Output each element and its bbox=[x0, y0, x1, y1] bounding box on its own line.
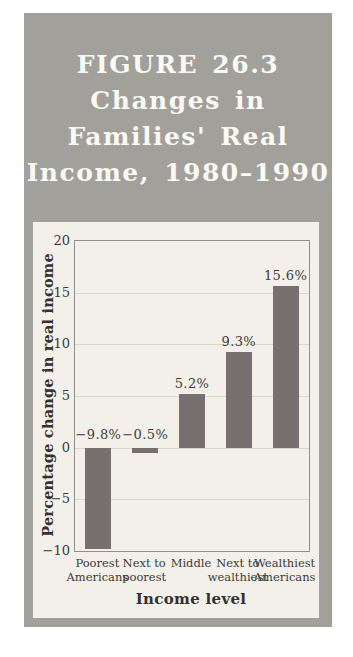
bar-value-label: 15.6% bbox=[264, 268, 307, 283]
x-category-label: Middle bbox=[171, 556, 212, 570]
y-tick-label: 0 bbox=[62, 439, 70, 454]
y-tick-label: 15 bbox=[53, 284, 70, 299]
bar-value-label: −9.8% bbox=[75, 427, 121, 442]
bar bbox=[226, 352, 252, 448]
figure-title-line: Families' Real bbox=[24, 119, 332, 155]
bar-value-label: 9.3% bbox=[221, 334, 256, 349]
chart-panel: Percentage change in real income 2015105… bbox=[33, 222, 319, 618]
bar bbox=[85, 448, 111, 549]
figure-title: FIGURE 26.3 Changes in Families' Real In… bbox=[24, 47, 332, 191]
x-axis-category-labels: Poorest AmericansNext to poorestMiddleNe… bbox=[74, 556, 308, 588]
page: FIGURE 26.3 Changes in Families' Real In… bbox=[0, 0, 353, 657]
y-tick-label: 10 bbox=[53, 336, 70, 351]
bar bbox=[179, 394, 205, 448]
figure-title-line: Changes in bbox=[24, 83, 332, 119]
bar-value-label: 5.2% bbox=[175, 376, 210, 391]
bar bbox=[132, 448, 158, 453]
y-tick-label: 20 bbox=[53, 233, 70, 248]
x-category-label: Next to poorest bbox=[122, 556, 166, 584]
figure-card: FIGURE 26.3 Changes in Families' Real In… bbox=[24, 13, 332, 627]
figure-title-line: FIGURE 26.3 bbox=[24, 47, 332, 83]
y-tick-label: −5 bbox=[51, 491, 70, 506]
bar bbox=[273, 286, 299, 447]
x-axis-title: Income level bbox=[136, 590, 247, 608]
x-category-label: Poorest Americans bbox=[66, 556, 128, 584]
y-tick-label: 5 bbox=[62, 388, 70, 403]
figure-title-line: Income, 1980–1990 bbox=[24, 155, 332, 191]
bar-value-label: −0.5% bbox=[122, 427, 168, 442]
x-category-label: Wealthiest Americans bbox=[254, 556, 316, 584]
y-axis-tick-labels: 20151050−5−10 bbox=[33, 240, 70, 550]
plot-area: −9.8%−0.5%5.2%9.3%15.6% bbox=[74, 240, 310, 552]
